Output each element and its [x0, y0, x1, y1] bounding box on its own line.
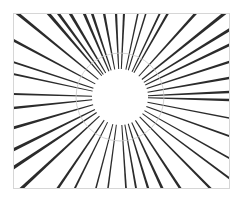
radial-focus-lines-graphic	[0, 0, 239, 199]
